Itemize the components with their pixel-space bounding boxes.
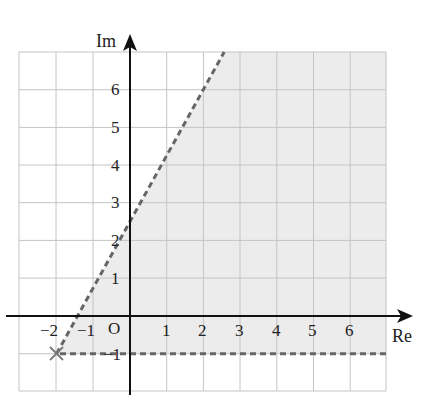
x-tick: 4 [272,321,281,340]
y-tick: 4 [111,156,120,175]
x-axis-label: Re [392,326,412,346]
y-tick: −1 [103,345,121,364]
x-tick: 1 [162,321,171,340]
x-tick: 3 [235,321,244,340]
x-tick: 2 [198,321,207,340]
y-tick: 6 [111,80,120,99]
x-tick: −2 [40,321,58,340]
y-tick: 3 [111,193,120,212]
y-tick: 2 [111,231,120,250]
x-tick: −1 [77,321,95,340]
y-axis-label: Im [96,31,116,51]
y-tick: 1 [111,269,120,288]
argand-diagram: Im Re O −2 −1 1 2 3 4 5 6 1 2 3 4 5 6 −1 [0,0,433,408]
x-tick: 5 [308,321,317,340]
origin-label: O [108,319,120,338]
x-tick: 6 [345,321,354,340]
y-tick: 5 [111,118,120,137]
